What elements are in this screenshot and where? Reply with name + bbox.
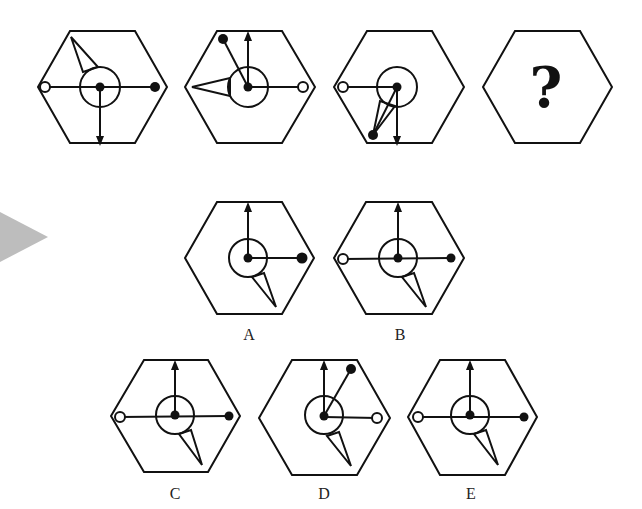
option-label-b: B — [380, 326, 420, 344]
option-c[interactable] — [111, 360, 240, 472]
center-dot — [96, 83, 105, 92]
option-label-e: E — [451, 485, 491, 503]
sequence-figure-3 — [334, 31, 464, 143]
puzzle-canvas: ? — [0, 0, 642, 509]
option-e[interactable] — [408, 360, 537, 475]
spike — [179, 430, 202, 465]
spike — [327, 432, 351, 466]
option-b[interactable] — [334, 202, 464, 314]
filled-dot — [150, 82, 160, 92]
open-dot — [40, 82, 50, 92]
option-label-d: D — [304, 485, 344, 503]
question-mark: ? — [530, 54, 563, 120]
center-dot — [393, 83, 402, 92]
open-dot — [338, 82, 348, 92]
spike — [252, 273, 276, 307]
open-dot — [298, 82, 308, 92]
filled-dot — [368, 130, 378, 140]
spike — [71, 37, 98, 72]
spike — [402, 273, 426, 307]
center-dot — [244, 83, 253, 92]
sequence-figure-1 — [38, 31, 167, 143]
filled-dot — [218, 34, 228, 44]
option-label-c: C — [155, 485, 195, 503]
option-d[interactable] — [259, 360, 390, 475]
spike — [192, 78, 230, 96]
play-arrow-icon — [0, 212, 48, 262]
sequence-figure-4-unknown: ? — [483, 31, 612, 143]
sequence-figure-2 — [185, 31, 315, 143]
option-a[interactable] — [185, 202, 314, 314]
spike — [474, 430, 498, 465]
option-label-a: A — [229, 326, 269, 344]
